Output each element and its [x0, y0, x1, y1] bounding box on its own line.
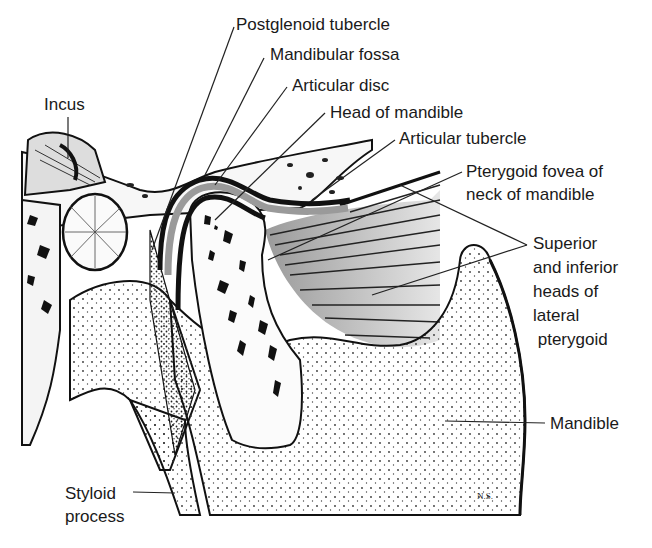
- tympanic-ring: [63, 194, 127, 270]
- label-pterygoid-fovea: Pterygoid fovea of neck of mandible: [466, 160, 603, 206]
- mastoid-region: [22, 200, 60, 445]
- label-articular-disc: Articular disc: [292, 76, 389, 95]
- tmj-diagram: N.S. Postglenoid tubercle Mandibular fos…: [0, 0, 652, 548]
- label-mandible: Mandible: [550, 414, 619, 433]
- label-postglenoid-tubercle: Postglenoid tubercle: [236, 15, 390, 34]
- label-head-of-mandible: Head of mandible: [330, 103, 463, 122]
- label-lateral-pterygoid: Superior and inferior heads of lateral p…: [533, 232, 618, 352]
- incus-illustration: [25, 133, 105, 195]
- label-incus: Incus: [44, 95, 85, 114]
- label-mandibular-fossa: Mandibular fossa: [270, 45, 399, 64]
- artist-signature: N.S.: [477, 491, 493, 501]
- label-articular-tubercle: Articular tubercle: [399, 129, 527, 148]
- label-styloid-process: Styloid process: [65, 482, 125, 528]
